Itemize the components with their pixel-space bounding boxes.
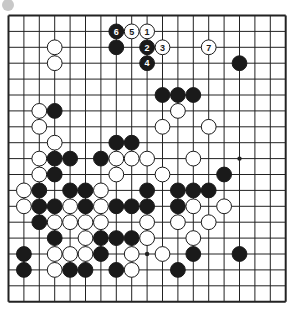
black-stone[interactable] [17,247,32,262]
black-stone[interactable] [171,88,186,103]
black-stone[interactable] [171,183,186,198]
black-stone[interactable] [94,231,109,246]
black-stone[interactable] [124,199,139,214]
white-stone[interactable] [47,215,62,230]
white-stone[interactable] [124,151,139,166]
black-stone[interactable] [78,199,93,214]
black-stone[interactable] [186,183,201,198]
white-stone[interactable] [94,199,109,214]
black-stone[interactable] [186,247,201,262]
white-stone[interactable] [78,231,93,246]
black-stone[interactable] [32,199,47,214]
black-stone[interactable] [47,167,62,182]
black-stone[interactable] [232,56,247,71]
white-stone[interactable] [78,247,93,262]
white-stone[interactable] [17,199,32,214]
white-stone[interactable] [186,231,201,246]
white-stone[interactable] [140,215,155,230]
black-stone[interactable] [201,183,216,198]
black-stone[interactable] [78,263,93,278]
black-stone[interactable] [32,183,47,198]
black-stone[interactable] [140,183,155,198]
white-stone[interactable] [32,104,47,119]
white-stone[interactable] [78,215,93,230]
white-stone[interactable] [140,151,155,166]
white-stone[interactable] [63,199,78,214]
black-stone[interactable] [17,263,32,278]
corner-marker-icon [2,0,14,11]
white-stone[interactable] [109,167,124,182]
black-stone[interactable]: 2 [140,40,155,55]
black-stone[interactable] [47,104,62,119]
black-stone[interactable] [140,199,155,214]
stone-circle [109,40,124,55]
white-stone[interactable] [94,183,109,198]
stone-circle [124,263,139,278]
white-stone[interactable] [201,215,216,230]
white-stone[interactable] [63,247,78,262]
black-stone[interactable] [63,263,78,278]
black-stone[interactable] [94,151,109,166]
white-stone[interactable] [217,199,232,214]
white-stone[interactable] [47,40,62,55]
black-stone[interactable] [32,215,47,230]
white-stone[interactable] [186,151,201,166]
stone-circle [94,183,109,198]
black-stone[interactable] [124,231,139,246]
black-stone[interactable] [109,135,124,150]
black-stone[interactable] [63,151,78,166]
black-stone[interactable] [47,151,62,166]
black-stone[interactable] [109,231,124,246]
white-stone[interactable] [47,247,62,262]
black-stone[interactable] [171,263,186,278]
star-point-icon [145,252,149,256]
black-stone[interactable] [232,247,247,262]
black-stone[interactable] [109,263,124,278]
white-stone[interactable] [32,167,47,182]
white-stone[interactable] [155,119,170,134]
black-stone[interactable] [124,135,139,150]
black-stone[interactable]: 4 [140,56,155,71]
white-stone[interactable] [47,263,62,278]
white-stone[interactable] [124,263,139,278]
stone-circle [232,247,247,262]
white-stone[interactable]: 3 [155,40,170,55]
white-stone[interactable] [186,199,201,214]
black-stone[interactable] [47,231,62,246]
black-stone[interactable] [171,199,186,214]
white-stone[interactable] [47,135,62,150]
go-board[interactable]: 6512374 [0,0,296,311]
white-stone[interactable] [32,119,47,134]
white-stone[interactable] [171,104,186,119]
white-stone[interactable] [201,119,216,134]
black-stone[interactable] [109,40,124,55]
black-stone[interactable] [217,167,232,182]
stone-circle [186,199,201,214]
white-stone[interactable]: 5 [124,24,139,39]
white-stone[interactable]: 1 [140,24,155,39]
white-stone[interactable] [94,215,109,230]
black-stone[interactable] [63,183,78,198]
white-stone[interactable] [32,151,47,166]
white-stone[interactable] [140,231,155,246]
white-stone[interactable] [171,215,186,230]
stone-circle [32,183,47,198]
black-stone[interactable] [186,88,201,103]
stone-circle [94,231,109,246]
white-stone[interactable] [63,215,78,230]
black-stone[interactable] [109,199,124,214]
black-stone[interactable]: 6 [109,24,124,39]
white-stone[interactable] [47,56,62,71]
white-stone[interactable]: 7 [201,40,216,55]
white-stone[interactable] [109,151,124,166]
white-stone[interactable] [155,167,170,182]
black-stone[interactable] [47,199,62,214]
black-stone[interactable] [94,247,109,262]
black-stone[interactable] [78,183,93,198]
black-stone[interactable] [155,88,170,103]
white-stone[interactable] [155,247,170,262]
white-stone[interactable] [17,183,32,198]
stone-circle [109,199,124,214]
white-stone[interactable] [124,247,139,262]
stone-circle [17,199,32,214]
